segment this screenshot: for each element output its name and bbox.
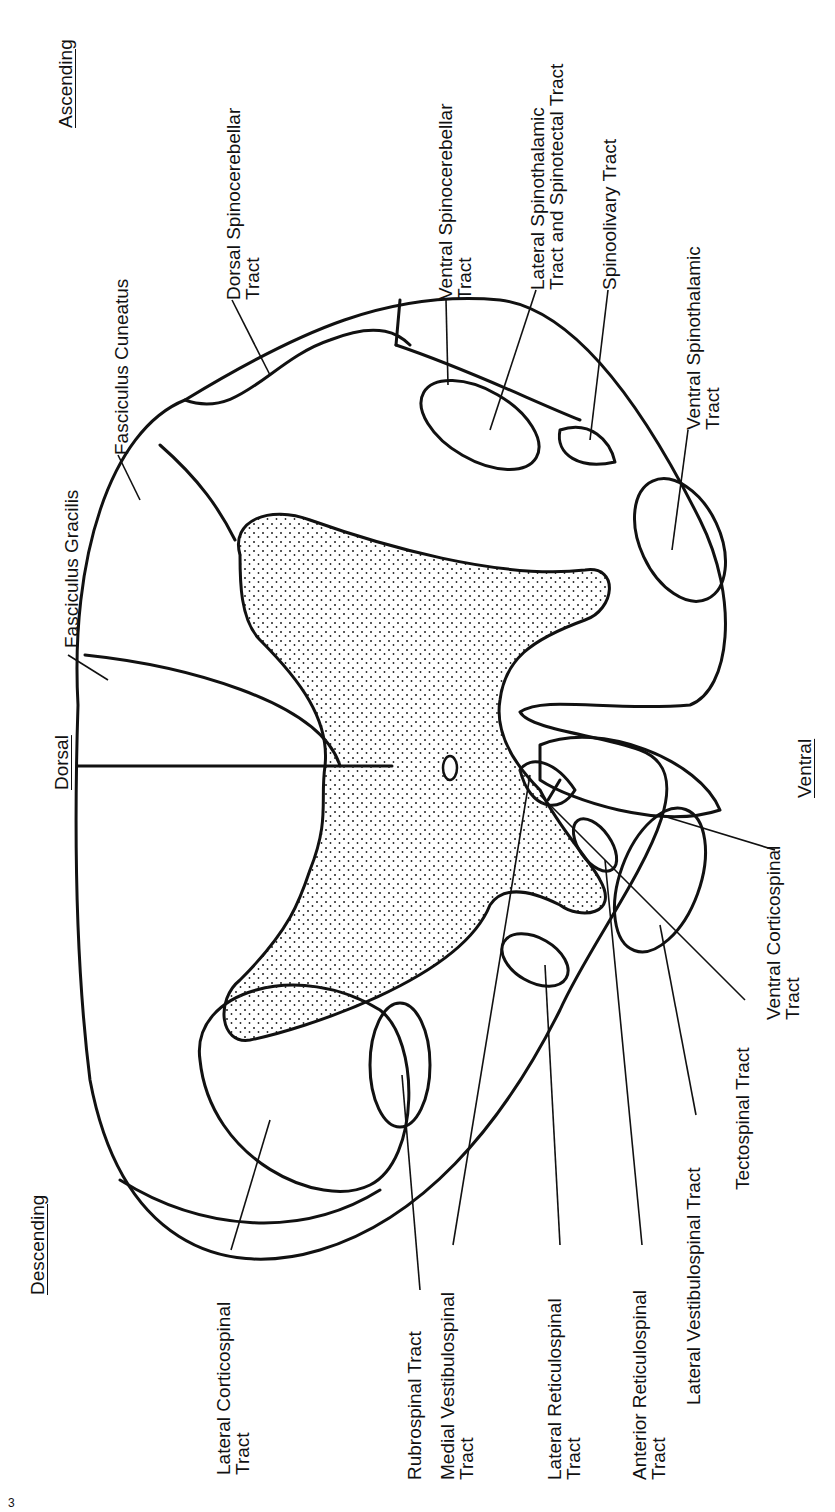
label-ventral-spinothalamic: Ventral Spinothalamic Tract	[684, 246, 722, 430]
leader-cuneatus	[118, 455, 140, 500]
leader-ventral-spinocerebellar	[446, 300, 448, 385]
ventral-spinocerebellar-boundary	[396, 345, 580, 420]
leader-ventral-corticospinal	[660, 815, 775, 850]
label-lateral-reticulospinal: Lateral Reticulospinal Tract	[545, 1298, 583, 1480]
label-tectospinal: Tectospinal Tract	[733, 1047, 752, 1190]
spinoolivary-region	[559, 427, 615, 464]
label-fasciculus-cuneatus: Fasciculus Cuneatus	[112, 279, 131, 455]
ventral-corticospinal-region	[540, 737, 720, 816]
label-rubrospinal: Rubrospinal Tract	[405, 1331, 424, 1480]
spinal-cord-diagram	[0, 0, 835, 1512]
label-anterior-reticulospinal: Anterior Reticulospinal Tract	[630, 1290, 668, 1480]
leader-spinoolivary	[590, 290, 608, 440]
leader-lateral-spinothalamic	[490, 290, 536, 430]
label-lateral-corticospinal: Lateral Corticospinal Tract	[214, 1302, 252, 1475]
leader-anterior-reticulospinal	[605, 860, 642, 1245]
grey-matter	[224, 514, 609, 1040]
lateral-reticulospinal-region	[493, 923, 577, 997]
label-lateral-spinothalamic: Lateral Spinothalamic Tract and Spinotec…	[528, 64, 566, 290]
leader-lateral-corticospinal	[231, 1120, 270, 1250]
cuneatus-boundary	[160, 445, 235, 540]
label-fasciculus-gracilis: Fasciculus Gracilis	[62, 490, 81, 648]
label-ventral-spinocerebellar: Ventral Spinocerebellar Tract	[436, 104, 474, 300]
lateral-spinothalamic-region	[406, 362, 554, 488]
central-canal	[443, 756, 457, 780]
leader-gracilis	[68, 655, 108, 680]
label-spinoolivary: Spinoolivary Tract	[600, 139, 619, 290]
label-dorsal-spinocerebellar: Dorsal Spinocerebellar Tract	[224, 108, 262, 300]
rubrospinal-region	[370, 1003, 430, 1127]
label-medial-vestibulospinal: Medial Vestibulospinal Tract	[438, 1292, 476, 1480]
leader-rubrospinal	[402, 1075, 420, 1290]
label-ascending: Ascending	[56, 39, 75, 128]
leader-lateral-reticulospinal	[545, 965, 560, 1245]
leader-lateral-vestibulospinal	[660, 925, 696, 1115]
label-ventral: Ventral	[795, 739, 814, 798]
page-mark: 3	[8, 1496, 15, 1510]
label-descending: Descending	[28, 1195, 47, 1295]
dorsal-spinocerebellar-boundary	[185, 330, 410, 404]
label-dorsal: Dorsal	[52, 735, 71, 790]
label-ventral-corticospinal: Ventral Corticospinal Tract	[764, 846, 802, 1020]
label-lateral-vestibulospinal: Lateral Vestibulospinal Tract	[684, 1167, 703, 1405]
